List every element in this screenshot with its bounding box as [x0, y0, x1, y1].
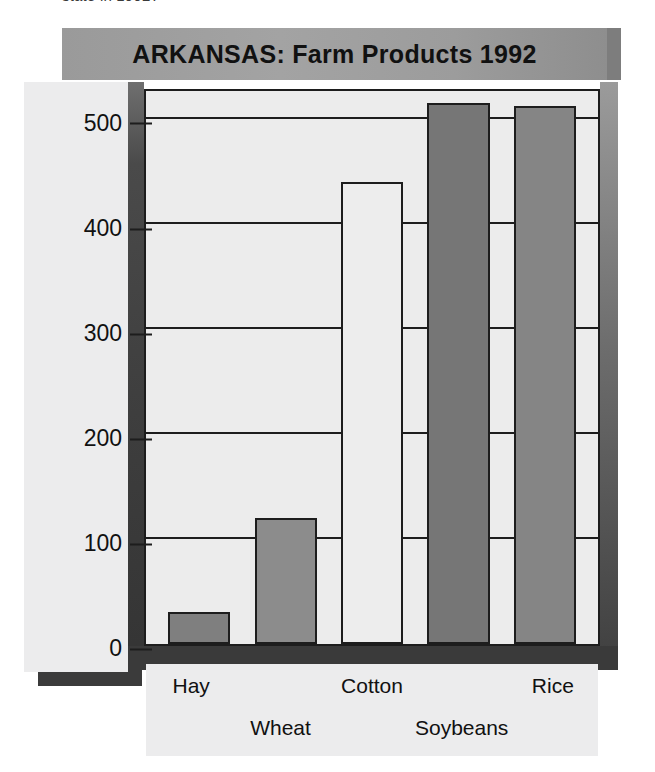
bar-slot-soybeans: [415, 91, 501, 644]
top-spacer-3: [417, 674, 507, 698]
bar-hay[interactable]: [168, 612, 230, 644]
x-label-hay: Hay: [146, 674, 236, 698]
bar-slot-hay: [156, 91, 242, 644]
y-tick-100: 100: [84, 529, 152, 556]
y-tick-400: 400: [84, 214, 152, 241]
y-tick-500: 500: [84, 109, 152, 136]
bar-slot-rice: [502, 91, 588, 644]
chart-title: ARKANSAS: Farm Products 1992: [62, 28, 607, 80]
page-caption-text: state in 1992?: [62, 0, 302, 9]
bar-series: [146, 91, 598, 644]
x-label-wheat: Wheat: [236, 716, 326, 740]
bar-soybeans[interactable]: [427, 103, 489, 644]
x-label-row-bottom: Wheat Soybeans: [146, 708, 598, 748]
plot-region: [144, 89, 600, 646]
bottom-spacer-0: [146, 716, 236, 740]
y-tick-300: 300: [84, 319, 152, 346]
bar-rice[interactable]: [514, 106, 576, 644]
chart-area: [128, 82, 618, 670]
bar-slot-wheat: [242, 91, 328, 644]
bottom-spacer-2: [325, 716, 415, 740]
y-tick-0: 0: [109, 635, 152, 662]
y-tick-200: 200: [84, 424, 152, 451]
x-label-row-top: Hay Cotton Rice: [146, 666, 598, 706]
y-axis-ticks: 0100200300400500: [24, 82, 152, 672]
bar-slot-cotton: [329, 91, 415, 644]
plot-right-shadow: [600, 82, 618, 670]
x-label-cotton: Cotton: [327, 674, 417, 698]
bottom-spacer-4: [508, 716, 598, 740]
top-spacer-1: [236, 674, 326, 698]
bar-cotton[interactable]: [341, 182, 403, 644]
x-axis-label-panel: Hay Cotton Rice Wheat Soybeans: [146, 664, 598, 756]
x-label-soybeans: Soybeans: [415, 716, 508, 740]
x-label-rice: Rice: [508, 674, 598, 698]
bar-wheat[interactable]: [255, 518, 317, 644]
